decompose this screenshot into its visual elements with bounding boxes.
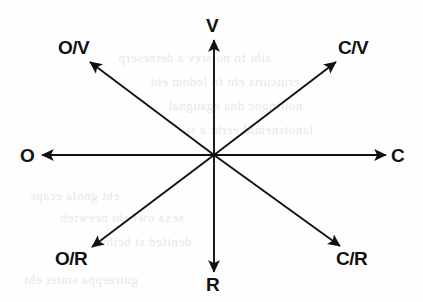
axis-label-c: C (391, 146, 404, 165)
axis-label-or: O/R (55, 249, 87, 268)
axis-arrow-cr (214, 155, 340, 246)
axis-label-r: R (206, 275, 219, 294)
axis-line-group (42, 40, 386, 272)
radial-axis-diagram: siht fo noisrev a detneserperutcurts eht… (0, 0, 423, 302)
axis-label-v: V (206, 16, 218, 35)
axis-label-ov: O/V (58, 38, 89, 57)
axis-label-cr: C/R (336, 249, 367, 268)
axis-arrow-cv (214, 62, 336, 155)
axis-label-o: O (20, 146, 34, 165)
axis-arrow-ov (90, 62, 214, 155)
axis-arrow-or (92, 155, 214, 247)
axis-label-cv: C/V (338, 38, 368, 57)
